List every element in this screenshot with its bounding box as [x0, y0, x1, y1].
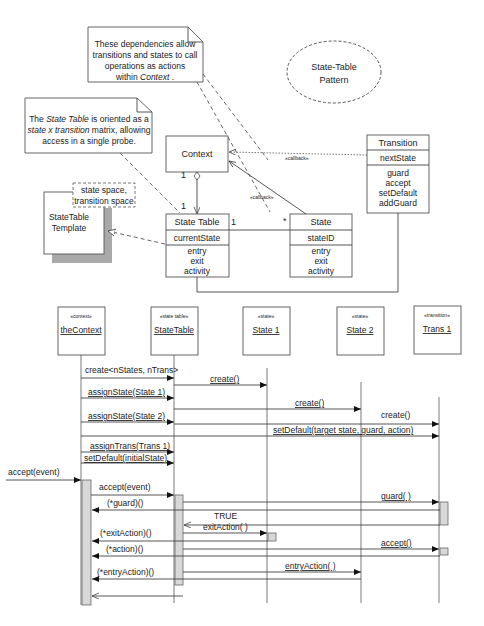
- svg-text:setDefault(initialState): setDefault(initialState): [84, 453, 167, 463]
- class-transition-op-2: accept: [385, 178, 411, 188]
- callback-label-transition: «callback»: [285, 155, 309, 161]
- class-state-table: State Table currentState entry exit acti…: [166, 214, 229, 277]
- msg-accept-table: accept(event): [91, 482, 174, 495]
- activation-context: [82, 480, 91, 605]
- note-dependencies-line-4: within Context .: [115, 72, 174, 82]
- svg-text:entryAction( ): entryAction( ): [285, 561, 336, 571]
- template-param-line-2: transition space: [74, 196, 134, 206]
- svg-text:(*action)(): (*action)(): [106, 544, 143, 554]
- class-state: State stateID entry exit activity: [290, 214, 352, 277]
- class-state-table-op-1: entry: [188, 246, 208, 256]
- note-dependencies-line-2: transitions and states to call: [93, 50, 198, 60]
- note-dependencies-line-3: operations as actions: [105, 61, 185, 71]
- msg-assign-state2: assignState(State 2): [81, 411, 174, 422]
- svg-text:create<nStates, nTrans>: create<nStates, nTrans>: [85, 365, 178, 375]
- mult-statetable-top: 1: [181, 201, 186, 211]
- lifeline-the-context: «context» theContext: [58, 307, 105, 355]
- lifeline-state2-name: State 2: [347, 325, 374, 335]
- svg-text:create(): create(): [381, 410, 410, 420]
- class-transition-attr: nextState: [380, 153, 416, 163]
- msg-set-default-initial: setDefault(initialState): [81, 453, 174, 463]
- template-name-line-2: Template: [52, 223, 87, 233]
- lifeline-trans-1: «transition» Trans 1: [414, 306, 461, 354]
- template-param-line-1: state space,: [81, 185, 127, 195]
- msg-set-default-trans1: setDefault(target state, guard, action): [81, 425, 439, 436]
- svg-text:assignTrans(Trans 1): assignTrans(Trans 1): [90, 441, 170, 451]
- mult-statetable-right: 1: [231, 217, 236, 227]
- msg-create-state1: create(): [174, 374, 267, 385]
- svg-text:setDefault(target state, guard: setDefault(target state, guard, action): [273, 425, 413, 435]
- svg-text:create(): create(): [295, 398, 324, 408]
- msg-assign-state1: assignState(State 1): [81, 387, 174, 398]
- note-orientation: The State Table is oriented as a state x…: [25, 98, 152, 153]
- class-state-name: State: [310, 217, 331, 227]
- msg-create-table: create<nStates, nTrans>: [81, 365, 178, 378]
- msg-entry-action: entryAction( ): [183, 561, 361, 572]
- svg-text:accept(event): accept(event): [8, 467, 60, 477]
- lifeline-trans1-stereotype: «transition»: [424, 312, 450, 318]
- lifeline-state-1: «state» State 1: [243, 307, 290, 355]
- pattern-title-ellipse: State-Table Pattern: [287, 41, 381, 103]
- activation-trans-guard: [440, 502, 448, 525]
- svg-text:(*exitAction)(): (*exitAction)(): [100, 528, 152, 538]
- class-state-op-2: exit: [314, 256, 328, 266]
- note-dependencies: These dependencies allow transitions and…: [88, 27, 203, 82]
- msg-create-trans1: create(): [174, 410, 439, 424]
- lifeline-state2-stereotype: «state»: [352, 313, 369, 319]
- lifeline-trans1-name: Trans 1: [423, 324, 452, 334]
- svg-text:assignState(State 1): assignState(State 1): [88, 387, 165, 397]
- svg-text:exitAction( ): exitAction( ): [203, 522, 248, 532]
- lifeline-state1-name: State 1: [253, 325, 280, 335]
- class-state-attr: stateID: [308, 233, 335, 243]
- svg-text:accept(): accept(): [381, 538, 412, 548]
- lifeline-state1-stereotype: «state»: [258, 313, 275, 319]
- activation-statetable: [175, 495, 183, 585]
- svg-text:(*entryAction)(): (*entryAction)(): [97, 567, 154, 577]
- activation-state-exit: [268, 533, 276, 541]
- class-context: Context: [166, 136, 228, 172]
- note-orientation-line-1: The State Table is oriented as a: [29, 114, 149, 124]
- class-state-table-op-3: activity: [184, 266, 211, 276]
- lifeline-context-stereotype: «context»: [70, 313, 92, 319]
- template-name-line-1: StateTable: [49, 212, 89, 222]
- note-orientation-line-3: access in a single probe.: [42, 136, 136, 146]
- lifeline-context-name: theContext: [60, 325, 102, 335]
- class-statetable-template: StateTable Template state space, transit…: [44, 183, 135, 263]
- msg-assign-trans1: assignTrans(Trans 1): [81, 441, 174, 452]
- class-transition-op-3: setDefault: [379, 188, 418, 198]
- msg-accept-call: accept(): [183, 538, 439, 549]
- class-state-table-name: State Table: [175, 217, 220, 227]
- mult-state: *: [283, 216, 287, 226]
- lifeline-state-2: «state» State 2: [337, 307, 384, 355]
- svg-text:TRUE: TRUE: [214, 511, 237, 521]
- lifeline-statetable-name: StateTable: [154, 325, 194, 335]
- class-context-name: Context: [181, 149, 213, 159]
- activation-trans-accept: [440, 548, 448, 555]
- svg-text:(*guard)(): (*guard)(): [107, 498, 144, 508]
- pattern-title-line-2: Pattern: [319, 75, 348, 85]
- svg-text:create(): create(): [210, 374, 239, 384]
- msg-accept-external: accept(event): [6, 467, 81, 480]
- class-state-table-op-2: exit: [190, 256, 204, 266]
- svg-text:assignState(State 2): assignState(State 2): [88, 411, 165, 421]
- msg-create-state2: create(): [174, 398, 361, 409]
- class-transition-name: Transition: [378, 138, 417, 148]
- class-transition-op-4: addGuard: [379, 198, 417, 208]
- msg-guard-call: guard( ): [183, 491, 439, 502]
- class-transition: Transition nextState guard accept setDef…: [367, 135, 429, 213]
- mult-context: 1: [181, 170, 186, 180]
- class-transition-op-1: guard: [387, 168, 409, 178]
- pattern-title-line-1: State-Table: [311, 62, 357, 72]
- msg-exit-action: exitAction( ): [183, 522, 267, 533]
- state-table-pattern-diagram: These dependencies allow transitions and…: [0, 0, 484, 626]
- lifeline-state-table: «state table» StateTable: [151, 307, 198, 355]
- svg-text:accept(event): accept(event): [99, 482, 151, 492]
- class-state-op-3: activity: [308, 266, 335, 276]
- svg-text:guard( ): guard( ): [381, 491, 411, 501]
- class-state-op-1: entry: [312, 246, 332, 256]
- note-orientation-line-2: state x transition matrix, allowing: [28, 125, 151, 135]
- lifeline-statetable-stereotype: «state table»: [160, 313, 189, 319]
- class-state-table-attr: currentState: [174, 233, 221, 243]
- callback-label-state: «callback»: [250, 194, 274, 200]
- note-dependencies-line-1: These dependencies allow: [95, 39, 197, 49]
